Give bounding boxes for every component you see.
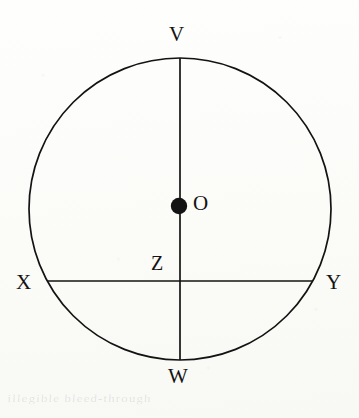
- point-label-y: Y: [326, 272, 341, 293]
- point-label-v: V: [169, 24, 184, 45]
- circle-diagram-figure: V W X Y Z O illegible bleed-through: [0, 0, 359, 418]
- point-label-o: O: [193, 193, 208, 214]
- center-point-dot: [171, 198, 187, 214]
- point-label-w: W: [168, 366, 188, 387]
- diagram-canvas: [0, 0, 359, 418]
- point-label-x: X: [16, 272, 31, 293]
- point-label-z: Z: [151, 253, 163, 273]
